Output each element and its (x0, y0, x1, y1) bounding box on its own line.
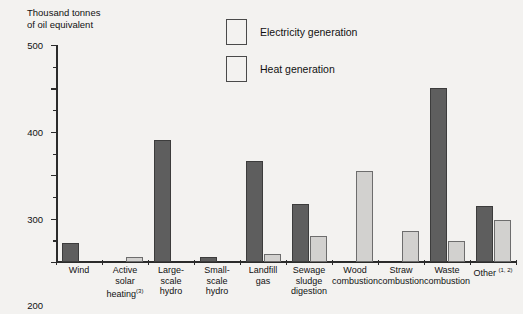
y-tick-label-500: 500 (27, 40, 43, 51)
bar-electricity (292, 204, 309, 262)
y-tick-label-400: 400 (27, 126, 43, 137)
y-tick-100: 100 (51, 219, 56, 220)
bar-heat (126, 257, 143, 262)
x-axis-label: Other (1, 2) (466, 265, 520, 279)
y-axis-line (56, 45, 58, 262)
bar-electricity (430, 88, 447, 262)
bar-heat (310, 236, 327, 262)
bar-electricity (200, 257, 217, 262)
chart-figure: Thousand tonnes of oil equivalent Electr… (0, 0, 523, 314)
bar-electricity (62, 243, 79, 262)
y-tick-150 (53, 197, 57, 198)
y-tick-350 (53, 110, 57, 111)
y-tick-250 (53, 154, 57, 155)
bar-heat (264, 254, 281, 262)
legend-item-electricity: Electricity generation (226, 19, 357, 45)
y-tick-label-200: 200 (27, 300, 43, 311)
bar-heat (356, 171, 373, 262)
y-tick-300: 300 (51, 132, 56, 133)
y-tick-400: 400 (51, 88, 56, 89)
bar-electricity (246, 161, 263, 262)
y-axis-title: Thousand tonnes of oil equivalent (27, 7, 100, 30)
plot-area: 0100200300400500 (56, 45, 516, 262)
y-tick-500: 500 (51, 45, 56, 46)
y-tick-label-300: 300 (27, 213, 43, 224)
legend-swatch-electricity (226, 19, 247, 45)
y-tick-50 (53, 240, 57, 241)
legend-label-electricity: Electricity generation (260, 26, 357, 38)
x-tick (516, 260, 517, 265)
x-axis-labels: WindActivesolarheating(3)Large-scalehydr… (56, 265, 518, 313)
y-tick-450 (53, 67, 57, 68)
bar-heat (402, 231, 419, 262)
bar-electricity (476, 206, 493, 262)
bar-heat (494, 220, 511, 262)
bar-electricity (154, 140, 171, 262)
y-tick-200: 200 (51, 175, 56, 176)
bar-heat (448, 241, 465, 262)
